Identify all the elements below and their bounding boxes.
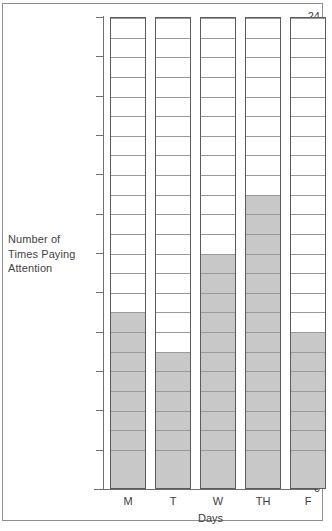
bar-cell-filled	[291, 371, 325, 391]
bar-cell-filled	[111, 312, 145, 332]
y-axis-tick	[96, 96, 103, 97]
bar-cell-filled	[111, 332, 145, 352]
bar-w[interactable]	[200, 17, 236, 489]
bar-cell-empty	[156, 97, 190, 117]
bar-cell-filled	[291, 332, 325, 352]
bar-cell-filled	[156, 411, 190, 431]
bar-cell-empty	[111, 97, 145, 117]
bar-cell-filled	[246, 293, 280, 313]
bar-cell-empty	[246, 97, 280, 117]
bar-cell-filled	[246, 352, 280, 372]
bar-cell-empty	[291, 155, 325, 175]
bar-cell-empty	[156, 77, 190, 97]
bar-cell-empty	[156, 214, 190, 234]
bar-cell-empty	[201, 97, 235, 117]
bar-cell-filled	[111, 469, 145, 488]
y-axis-tick	[96, 253, 103, 254]
y-axis-tick	[96, 450, 103, 451]
bar-cell-empty	[111, 234, 145, 254]
bar-cell-empty	[291, 273, 325, 293]
x-axis-tick-label: T	[155, 495, 191, 507]
y-axis-tick	[96, 17, 103, 18]
bar-cell-empty	[156, 273, 190, 293]
bar-cell-filled	[111, 371, 145, 391]
bar-cell-empty	[201, 57, 235, 77]
bar-cell-filled	[246, 195, 280, 215]
bar-cell-empty	[156, 332, 190, 352]
bar-cell-empty	[201, 18, 235, 38]
bar-cell-filled	[246, 254, 280, 274]
bar-cell-empty	[291, 175, 325, 195]
bar-cell-filled	[111, 352, 145, 372]
bar-cell-empty	[156, 312, 190, 332]
bar-cell-empty	[156, 18, 190, 38]
bar-cell-empty	[111, 57, 145, 77]
x-axis-title: Days	[103, 512, 318, 524]
bar-cell-empty	[291, 77, 325, 97]
bar-cell-filled	[156, 450, 190, 470]
bar-cell-filled	[201, 391, 235, 411]
bar-cell-empty	[111, 136, 145, 156]
bar-cell-empty	[201, 77, 235, 97]
x-axis-tick-label: F	[290, 495, 326, 507]
y-axis-tick	[96, 214, 103, 215]
bar-cell-empty	[246, 116, 280, 136]
bar-cell-empty	[156, 155, 190, 175]
bar-th[interactable]	[245, 17, 281, 489]
bar-cell-filled	[111, 430, 145, 450]
bar-m[interactable]	[110, 17, 146, 489]
bar-cell-filled	[246, 391, 280, 411]
bar-cell-empty	[156, 175, 190, 195]
bar-cell-filled	[201, 469, 235, 488]
bar-cell-filled	[291, 391, 325, 411]
bar-cell-empty	[291, 214, 325, 234]
bar-cell-filled	[291, 411, 325, 431]
bar-cell-filled	[291, 352, 325, 372]
x-axis-tick-label: W	[200, 495, 236, 507]
bar-cell-filled	[156, 391, 190, 411]
bar-cell-filled	[201, 254, 235, 274]
bar-cell-filled	[156, 352, 190, 372]
bar-cell-empty	[291, 38, 325, 58]
bar-cell-filled	[291, 430, 325, 450]
bar-cell-empty	[111, 254, 145, 274]
bar-cell-empty	[111, 293, 145, 313]
bar-cell-empty	[291, 136, 325, 156]
bar-cell-filled	[156, 469, 190, 488]
bar-cell-filled	[201, 273, 235, 293]
bar-cell-filled	[246, 332, 280, 352]
bar-cell-empty	[156, 116, 190, 136]
bar-cell-empty	[201, 38, 235, 58]
bar-cell-filled	[246, 430, 280, 450]
bar-cell-empty	[246, 18, 280, 38]
bar-cell-filled	[246, 312, 280, 332]
bar-cell-filled	[201, 332, 235, 352]
bar-cell-empty	[291, 116, 325, 136]
y-axis-tick	[96, 410, 103, 411]
bar-t[interactable]	[155, 17, 191, 489]
bar-cell-empty	[291, 57, 325, 77]
bar-cell-filled	[246, 273, 280, 293]
bar-cell-filled	[246, 371, 280, 391]
bar-cell-filled	[201, 450, 235, 470]
bar-cell-empty	[111, 175, 145, 195]
bar-cell-empty	[156, 38, 190, 58]
y-axis-tick	[96, 135, 103, 136]
bar-cell-empty	[111, 38, 145, 58]
bar-f[interactable]	[290, 17, 326, 489]
y-axis-tick	[96, 292, 103, 293]
bar-cell-filled	[246, 450, 280, 470]
bar-cell-empty	[111, 214, 145, 234]
bar-cell-empty	[246, 175, 280, 195]
bar-cell-filled	[111, 450, 145, 470]
chart-plot-area: 024681012141618202224 MTWTHF Days	[0, 0, 332, 531]
bar-cell-empty	[156, 254, 190, 274]
y-axis-tick	[96, 174, 103, 175]
bar-cell-empty	[156, 293, 190, 313]
bar-cell-empty	[156, 136, 190, 156]
bar-cell-filled	[111, 411, 145, 431]
bar-cell-empty	[291, 234, 325, 254]
x-axis-tick-label: M	[110, 495, 146, 507]
bar-cell-empty	[291, 312, 325, 332]
bar-cell-filled	[201, 293, 235, 313]
